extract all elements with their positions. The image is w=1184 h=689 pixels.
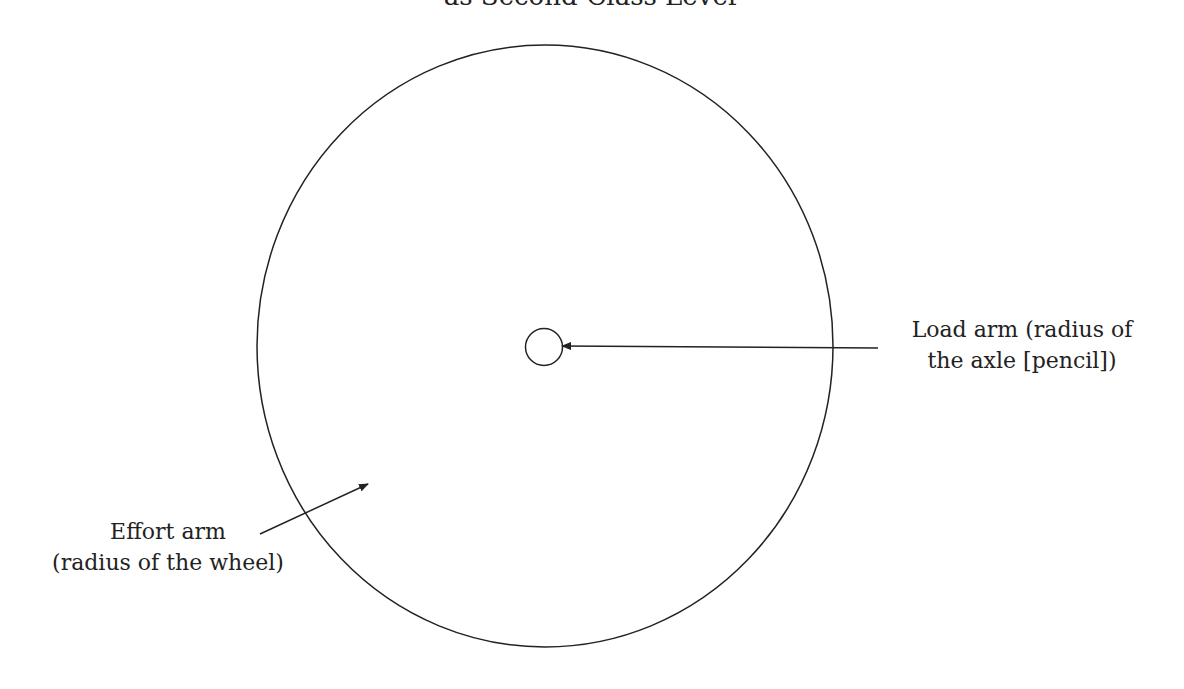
diagram-page: as Second-Class Lever Load arm (radius o…	[0, 0, 1184, 689]
load-arm-arrow	[562, 346, 878, 348]
wheel-circle	[257, 45, 833, 647]
effort-arm-label: Effort arm (radius of the wheel)	[20, 516, 316, 578]
load-arm-label: Load arm (radius of the axle [pencil])	[884, 314, 1160, 376]
axle-circle	[526, 329, 563, 366]
effort-arm-label-line1: Effort arm	[20, 516, 316, 547]
load-arm-label-line1: Load arm (radius of	[884, 314, 1160, 345]
load-arm-label-line2: the axle [pencil])	[884, 345, 1160, 376]
effort-arm-label-line2: (radius of the wheel)	[20, 547, 316, 578]
